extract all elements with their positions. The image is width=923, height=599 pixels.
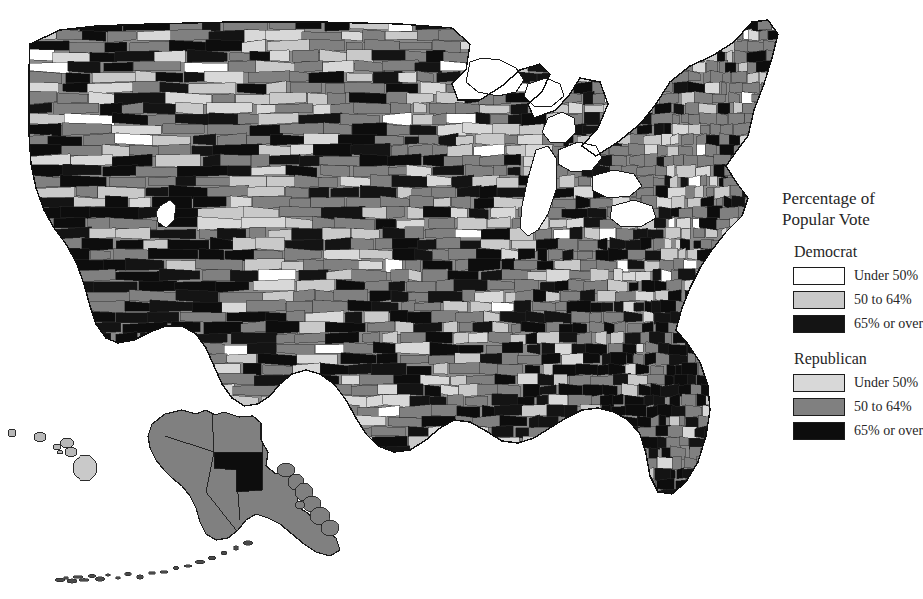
hawaii-island-6 [65,447,77,457]
hawaii-island-3 [53,444,61,450]
legend-group-republican: Republican Under 50% 50 to 64% 65% or ov… [782,349,912,441]
legend-row-republican-50to64: 50 to 64% [793,397,912,417]
hawaii-island-5 [57,450,63,454]
hawaii-island-2 [34,432,46,442]
legend-swatch-democrat-under50 [793,267,845,285]
legend-group-title-republican: Republican [794,349,912,369]
legend-heading-line1: Percentage of [782,188,912,209]
legend-label-republican-under50: Under 50% [854,374,918,392]
legend-swatch-republican-65plus [793,422,845,440]
legend-row-democrat-65plus: 65% or over [793,314,912,334]
hawaii-island-7 [73,455,97,481]
legend-group-title-democrat: Democrat [794,242,912,262]
legend-row-democrat-50to64: 50 to 64% [793,290,912,310]
hawaii-island-4 [60,438,74,448]
legend-swatch-democrat-50to64 [793,291,845,309]
legend-row-democrat-under50: Under 50% [793,266,912,286]
legend-label-republican-50to64: 50 to 64% [854,398,912,416]
legend-row-republican-65plus: 65% or over [793,421,912,441]
legend-swatch-republican-50to64 [793,398,845,416]
legend-swatch-democrat-65plus [793,315,845,333]
legend-label-democrat-65plus: 65% or over [854,315,923,333]
hawaii-island-1 [8,429,16,437]
legend-label-democrat-50to64: 50 to 64% [854,291,912,309]
legend-row-republican-under50: Under 50% [793,373,912,393]
legend-group-democrat: Democrat Under 50% 50 to 64% 65% or over [782,242,912,334]
legend-label-democrat-under50: Under 50% [854,267,918,285]
map-legend: Percentage of Popular Vote Democrat Unde… [782,188,912,445]
legend-swatch-republican-under50 [793,374,845,392]
legend-heading-line2: Popular Vote [782,209,912,230]
legend-label-republican-65plus: 65% or over [854,422,923,440]
